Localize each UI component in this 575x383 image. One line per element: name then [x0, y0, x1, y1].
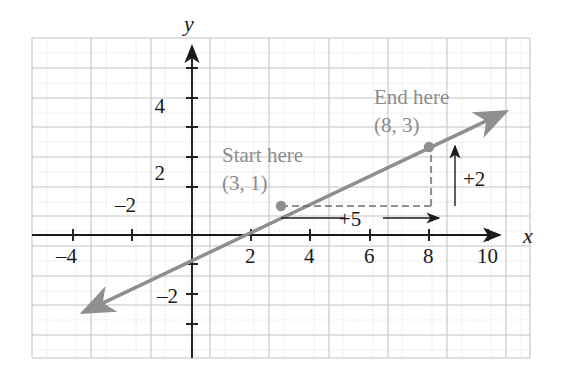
- start-point-marker: [276, 201, 286, 211]
- rise-label: +2: [463, 167, 485, 191]
- y-tick-label-2: 2: [155, 161, 166, 185]
- x-tick-label--2: –2: [114, 193, 136, 217]
- y-tick-label-4: 4: [155, 94, 166, 118]
- y-axis-label: y: [182, 11, 194, 36]
- coordinate-plane-figure: –4 –2 2 4 6 8 10 4 2 –2 x y Start here (…: [0, 0, 575, 383]
- end-point-coords-label: (8, 3): [374, 113, 420, 137]
- end-here-label: End here: [374, 85, 449, 109]
- run-label: +5: [339, 207, 361, 231]
- x-tick-label-8: 8: [423, 244, 434, 268]
- x-tick-label-2: 2: [245, 244, 256, 268]
- x-tick-label-4: 4: [304, 244, 315, 268]
- x-tick-label-10: 10: [477, 244, 498, 268]
- end-point-marker: [424, 142, 434, 152]
- x-axis-label: x: [522, 223, 533, 248]
- start-here-label: Start here: [222, 143, 303, 167]
- x-tick-label-6: 6: [364, 244, 375, 268]
- y-tick-label--2: –2: [156, 284, 178, 308]
- figure-canvas: –4 –2 2 4 6 8 10 4 2 –2 x y Start here (…: [0, 0, 575, 383]
- start-point-coords-label: (3, 1): [222, 171, 268, 195]
- x-tick-label--4: –4: [55, 244, 78, 268]
